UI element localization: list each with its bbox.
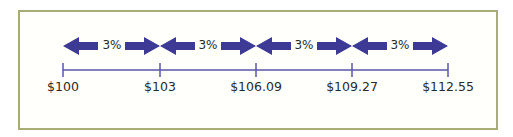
left-arrow-icon (63, 37, 98, 55)
tick-label: $100 (47, 79, 79, 94)
right-arrow-icon (413, 37, 448, 55)
tick-label: $112.55 (422, 79, 474, 94)
segment-rate-label: 3% (198, 38, 217, 52)
tick-label: $106.09 (230, 79, 282, 94)
left-arrow-icon (160, 37, 195, 55)
right-arrow-icon (221, 37, 256, 55)
right-arrow-icon (317, 37, 352, 55)
number-line-graphic (0, 0, 513, 137)
tick-label: $109.27 (326, 79, 378, 94)
tick-label: $103 (144, 79, 176, 94)
left-arrow-icon (352, 37, 387, 55)
left-arrow-icon (256, 37, 291, 55)
right-arrow-icon (125, 37, 160, 55)
segment-rate-label: 3% (390, 38, 409, 52)
segment-rate-label: 3% (294, 38, 313, 52)
segment-rate-label: 3% (102, 38, 121, 52)
